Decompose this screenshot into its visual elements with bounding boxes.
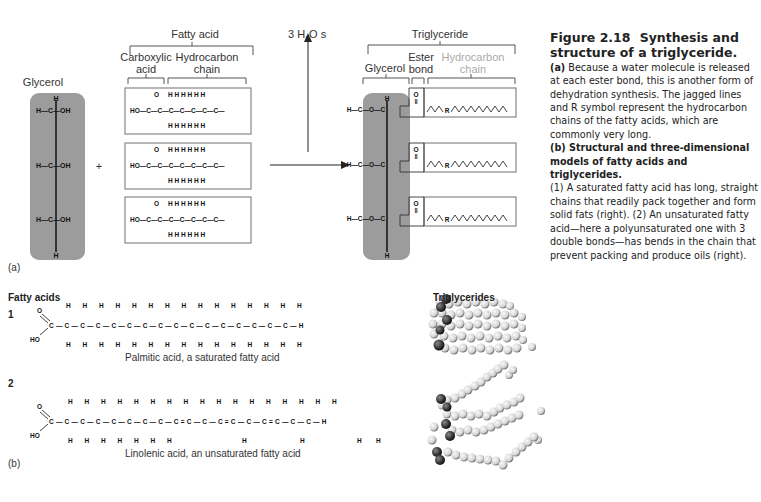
plus-sign: +: [92, 160, 106, 172]
r-symbol: R: [445, 107, 450, 114]
water-release-label: 3 H2O s: [288, 28, 348, 45]
svg-text:H H H H H H: H H H H H H: [168, 91, 206, 98]
item-1-number: 1: [8, 309, 14, 320]
svg-text:O: O: [154, 200, 159, 207]
svg-text:HO—C—C—C—C—C—C—C—: HO—C—C—C—C—C—C—C—: [130, 162, 225, 169]
glycerol-box: [30, 93, 85, 260]
carboxylic-acid-label: Carboxylic acid: [118, 51, 174, 75]
svg-text:HO: HO: [30, 336, 40, 343]
svg-text:HO: HO: [30, 432, 40, 439]
svg-text:H—C—OH: H—C—OH: [36, 107, 71, 114]
triglyceride-glycerol-label: Glycerol: [360, 62, 410, 74]
caption-a-label: (a): [550, 62, 565, 73]
svg-text:H: H: [53, 252, 58, 259]
svg-text:R: R: [445, 216, 450, 223]
unsaturated-triglyceride-model: [428, 361, 546, 470]
linolenic-acid-formula: O HO C — C — C — C — C — C — C — C — C =…: [30, 398, 381, 444]
svg-text:H—C—OH: H—C—OH: [36, 216, 71, 223]
svg-text:H—C—O—C: H—C—O—C: [347, 106, 386, 113]
triglyceride-hydrocarbon-label: Hydrocarbon chain: [440, 51, 506, 75]
figure-caption: Figure 2.18 Synthesis and structure of a…: [550, 30, 760, 262]
svg-text:H: H: [376, 437, 381, 444]
svg-text:C — C — C — C — C — C — C — C: C — C — C — C — C — C — C — C — C — C — …: [49, 322, 304, 329]
svg-text:O: O: [37, 403, 42, 410]
item-2-number: 2: [8, 378, 14, 389]
svg-text:‖: ‖: [414, 153, 417, 160]
svg-text:O: O: [154, 146, 159, 153]
svg-text:C — C — C — C — C — C — C — C: C — C — C — C — C — C — C — C — C = C — …: [49, 418, 327, 425]
fatty-acid-label: Fatty acid: [155, 28, 235, 40]
caption-b-label: (b) Structural and three-dimensional mod…: [550, 142, 749, 180]
svg-text:H—C—O—C: H—C—O—C: [347, 215, 386, 222]
svg-text:O: O: [413, 91, 418, 98]
linolenic-acid-caption: Linolenic acid, an unsaturated fatty aci…: [125, 448, 301, 459]
ester-bond-label: Ester bond: [407, 51, 435, 75]
svg-text:H: H: [300, 437, 305, 444]
svg-text:HO—C—C—C—C—C—C—C—: HO—C—C—C—C—C—C—C—: [130, 107, 225, 114]
panel-a-label: (a): [8, 262, 20, 273]
palmitic-acid-caption: Palmitic acid, a saturated fatty acid: [125, 352, 280, 363]
svg-text:R: R: [445, 162, 450, 169]
svg-text:O: O: [37, 307, 42, 314]
svg-text:O: O: [154, 91, 159, 98]
svg-text:H H H H H H: H H H H H H: [168, 231, 206, 238]
saturated-triglyceride-model: [429, 294, 537, 355]
svg-text:O: O: [413, 146, 418, 153]
svg-text:‖: ‖: [414, 207, 417, 214]
svg-text:H H H H H H: H H H H H H: [168, 177, 206, 184]
svg-text:HO—C—C—C—C—C—C—C—: HO—C—C—C—C—C—C—C—: [130, 216, 225, 223]
svg-text:H: H: [385, 252, 390, 259]
svg-text:H H H H H H: H H H H H H: [168, 200, 206, 207]
caption-a-text: Because a water molecule is released at …: [550, 62, 753, 140]
hydrocarbon-chain-label: Hydrocarbon chain: [174, 51, 240, 75]
fatty-acids-header: Fatty acids: [8, 292, 60, 303]
triglyceride-label: Triglyceride: [405, 28, 475, 40]
svg-text:‖: ‖: [414, 98, 417, 105]
svg-text:H H H H H H: H H H H H H: [168, 146, 206, 153]
svg-text:H: H: [242, 437, 247, 444]
figure-number: Figure 2.18: [550, 30, 631, 45]
svg-text:H: H: [385, 95, 390, 102]
svg-text:H H H H H H H H H H H H H H H: H H H H H H H H H H H H H H H H H: [68, 398, 337, 405]
svg-text:H H H H H H H H H H H H H H H: H H H H H H H H H H H H H H H: [66, 302, 302, 309]
svg-text:O: O: [413, 200, 418, 207]
svg-text:H—C—OH: H—C—OH: [36, 162, 71, 169]
svg-text:H: H: [53, 95, 58, 102]
panel-b-label: (b): [8, 458, 20, 469]
caption-b-text: (1) A saturated fatty acid has long, str…: [550, 182, 758, 260]
svg-text:H H H H H H: H H H H H H: [168, 122, 206, 129]
svg-text:H H H H H H H H H H H H H H H: H H H H H H H H H H H H H H H: [66, 341, 302, 348]
glycerol-label: Glycerol: [8, 76, 78, 88]
palmitic-acid-formula: O HO C — C — C — C — C — C — C — C — C —…: [30, 302, 304, 348]
svg-text:H: H: [357, 437, 362, 444]
triglycerides-header: Triglycerides: [433, 292, 495, 303]
svg-text:H—C—O—C: H—C—O—C: [347, 161, 386, 168]
svg-text:H H H H H H H: H H H H H H H: [68, 437, 172, 444]
